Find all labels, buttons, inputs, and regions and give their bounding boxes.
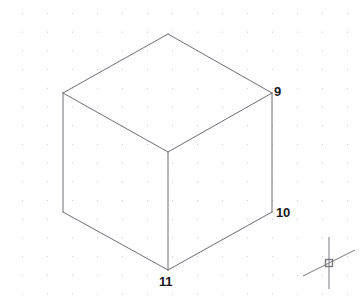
- crosshair-icon: [303, 237, 355, 289]
- vertex-label-10: 10: [276, 206, 290, 219]
- crosshair-cursor[interactable]: [303, 237, 355, 289]
- cad-drawing-canvas[interactable]: 9 10 11: [0, 0, 361, 307]
- vertex-label-11: 11: [159, 275, 172, 288]
- vertex-label-9: 9: [274, 85, 281, 98]
